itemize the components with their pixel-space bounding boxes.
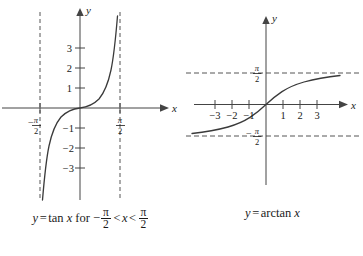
svg-text:π: π — [118, 115, 123, 125]
svg-text:−2: −2 — [63, 143, 74, 154]
svg-text:π: π — [34, 115, 39, 125]
svg-text:3: 3 — [314, 110, 319, 121]
tangent-plot-svg: y x 3 2 1 −1 −2 −3 − π 2 π — [0, 0, 182, 205]
arctangent-y-axis-label: y — [271, 12, 277, 24]
figure-arctangent: y x −3 −2 −1 1 2 3 π 2 − π — [182, 0, 363, 256]
caption-function-name: arctan — [261, 206, 292, 220]
x-tick-label-neg-half-pi: − π 2 — [28, 115, 41, 136]
caption-lhs-var: y — [245, 206, 251, 220]
caption-upper-bound-denominator: 2 — [139, 219, 149, 231]
tangent-caption: y=tan x for −π2<x<π2 — [0, 207, 182, 231]
svg-text:1: 1 — [67, 83, 72, 94]
caption-argument: x — [294, 206, 300, 220]
asymptote-upper-label: π 2 — [253, 63, 262, 84]
arctangent-plot-svg: y x −3 −2 −1 1 2 3 π 2 − π — [182, 0, 363, 205]
caption-for-word: for — [75, 211, 90, 225]
caption-argument: x — [67, 211, 73, 225]
x-axis-arrow-icon — [339, 101, 348, 108]
svg-text:−3: −3 — [209, 110, 220, 121]
svg-text:−2: −2 — [226, 110, 237, 121]
svg-text:3: 3 — [67, 43, 72, 54]
caption-function-name: tan — [48, 211, 63, 225]
svg-text:2: 2 — [255, 137, 259, 147]
figure-tangent: y x 3 2 1 −1 −2 −3 − π 2 π — [0, 0, 182, 256]
y-axis-arrow-icon — [76, 8, 83, 16]
x-tick-labels: −3 −2 −1 1 2 3 — [209, 110, 319, 121]
svg-text:π: π — [255, 63, 260, 73]
y-axis-arrow-icon — [262, 16, 269, 24]
svg-text:2: 2 — [297, 110, 302, 121]
svg-text:2: 2 — [34, 126, 38, 136]
svg-text:−: − — [246, 128, 252, 139]
tangent-x-axis-label: x — [171, 102, 177, 114]
tangent-plot-area: y x 3 2 1 −1 −2 −3 − π 2 π — [0, 0, 182, 205]
svg-text:2: 2 — [67, 63, 72, 74]
caption-lower-bound-fraction: π2 — [101, 207, 111, 231]
caption-lower-bound-denominator: 2 — [101, 219, 111, 231]
caption-less-than-2: < — [128, 211, 138, 225]
svg-text:2: 2 — [118, 126, 122, 136]
svg-text:−1: −1 — [63, 123, 74, 134]
svg-text:2: 2 — [255, 74, 259, 84]
svg-text:π: π — [255, 126, 260, 136]
caption-less-than-1: < — [112, 211, 122, 225]
asymptote-lower-label: − π 2 — [246, 126, 262, 147]
svg-text:−1: −1 — [243, 110, 254, 121]
x-tick-label-half-pi: π 2 — [116, 115, 125, 136]
caption-equals: = — [38, 211, 48, 225]
caption-equals: = — [251, 206, 261, 220]
svg-text:−3: −3 — [63, 163, 74, 174]
x-axis-arrow-icon — [160, 104, 169, 111]
caption-negative-sign: − — [93, 211, 100, 225]
arctangent-plot-area: y x −3 −2 −1 1 2 3 π 2 − π — [182, 0, 363, 205]
arctangent-caption: y=arctan x — [182, 207, 363, 220]
arctangent-x-axis-label: x — [350, 99, 356, 111]
caption-upper-bound-fraction: π2 — [139, 207, 149, 231]
caption-middle-var: x — [122, 211, 128, 225]
svg-text:1: 1 — [280, 110, 285, 121]
tangent-y-axis-label: y — [85, 4, 91, 16]
